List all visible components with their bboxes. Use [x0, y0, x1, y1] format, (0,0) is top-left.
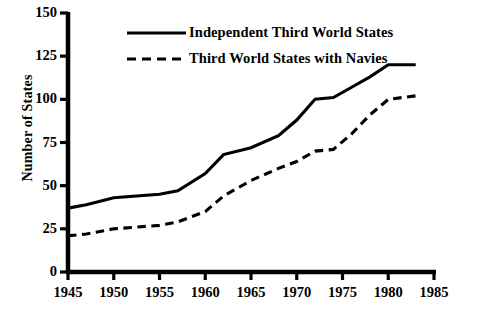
x-axis-tick-label: 1985 — [409, 285, 459, 300]
legend-label-2: Third World States with Navies — [189, 50, 388, 67]
chart-figure: Number of States 1501251007550250 194519… — [0, 0, 487, 311]
y-axis-tick-label: 75 — [43, 135, 58, 150]
data-series — [68, 65, 416, 236]
y-axis-tick-label: 25 — [43, 221, 58, 236]
x-axis-tick-label: 1975 — [318, 285, 368, 300]
y-axis-tick-label: 125 — [35, 48, 57, 63]
x-axis-tick-label: 1980 — [363, 285, 413, 300]
legend-line-samples — [127, 33, 186, 59]
x-axis-tick-label: 1970 — [272, 285, 322, 300]
x-axis-tick-label: 1960 — [180, 285, 230, 300]
y-axis-title: Number of States — [20, 38, 36, 218]
y-axis-tick-label: 150 — [35, 5, 57, 20]
plot-area — [0, 0, 487, 311]
y-axis-tick-label: 50 — [43, 178, 58, 193]
series-line-2 — [68, 96, 416, 236]
x-axis-tick-label: 1965 — [226, 285, 276, 300]
x-axis-tick-label: 1955 — [135, 285, 185, 300]
legend-label-1: Independent Third World States — [189, 24, 393, 41]
y-axis-tick-label: 0 — [50, 264, 57, 279]
x-axis-tick-label: 1945 — [43, 285, 93, 300]
y-axis-tick-label: 100 — [35, 91, 57, 106]
x-axis-tick-label: 1950 — [89, 285, 139, 300]
